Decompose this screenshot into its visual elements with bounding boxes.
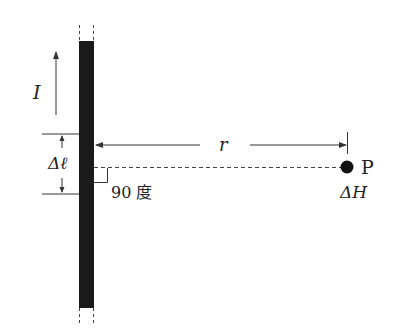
point-label: P	[361, 156, 374, 178]
segment-label: Δℓ	[47, 153, 67, 173]
wire-extension-bottom	[80, 308, 94, 326]
wire-extension-top	[80, 25, 94, 41]
biot-savart-diagram: I Δℓ r 90 度 P ΔH	[0, 0, 399, 329]
point-p-dot	[341, 161, 354, 174]
distance-label: r	[219, 134, 229, 155]
current-label: I	[32, 81, 41, 103]
angle-label: 90 度	[111, 183, 152, 202]
wire	[79, 41, 94, 308]
right-angle-marker	[94, 168, 108, 183]
field-label: ΔH	[339, 182, 368, 202]
